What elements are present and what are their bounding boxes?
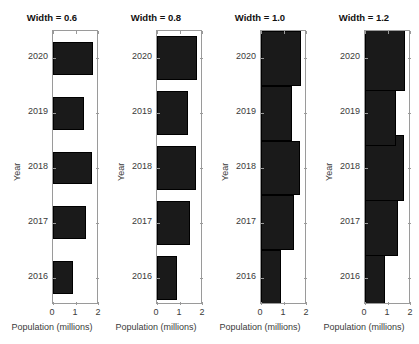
- y-tick-label: 2016: [124, 271, 152, 281]
- bar: [53, 152, 92, 185]
- x-tick-label: 1: [275, 307, 291, 317]
- x-tick-mark: [365, 31, 366, 34]
- x-tick-mark: [202, 31, 203, 34]
- y-tick-label: 2016: [332, 271, 360, 281]
- x-tick-mark: [284, 31, 285, 34]
- subplot-1: Width = 0.620162017201820192020012Popula…: [0, 0, 104, 344]
- y-tick-mark: [53, 58, 56, 59]
- y-tick-label: 2016: [20, 271, 48, 281]
- y-tick-mark: [261, 168, 264, 169]
- y-tick-mark: [408, 278, 411, 279]
- plot-area: [157, 31, 201, 303]
- y-tick-mark: [365, 58, 368, 59]
- bar: [261, 195, 294, 250]
- bar: [157, 36, 197, 80]
- x-tick-mark: [157, 31, 158, 34]
- y-tick-label: 2019: [20, 106, 48, 116]
- axes-box: [156, 30, 202, 304]
- x-tick-mark: [180, 302, 181, 305]
- x-tick-label: 0: [252, 307, 268, 317]
- y-tick-mark: [200, 223, 203, 224]
- x-tick-label: 1: [67, 307, 83, 317]
- subplot-title: Width = 0.8: [104, 12, 208, 23]
- y-tick-mark: [96, 223, 99, 224]
- plot-area: [365, 31, 409, 303]
- x-tick-mark: [157, 302, 158, 305]
- bar: [53, 206, 86, 239]
- x-tick-label: 0: [148, 307, 164, 317]
- x-tick-label: 0: [44, 307, 60, 317]
- y-tick-mark: [200, 168, 203, 169]
- bar: [53, 42, 93, 75]
- y-tick-mark: [408, 168, 411, 169]
- y-axis-label: Year: [116, 163, 126, 181]
- bar: [157, 146, 196, 190]
- x-tick-mark: [306, 31, 307, 34]
- y-tick-label: 2020: [332, 51, 360, 61]
- y-tick-mark: [53, 168, 56, 169]
- x-tick-mark: [388, 31, 389, 34]
- y-tick-label: 2020: [124, 51, 152, 61]
- y-tick-mark: [408, 113, 411, 114]
- bar: [261, 250, 281, 303]
- x-tick-mark: [388, 302, 389, 305]
- y-tick-label: 2020: [228, 51, 256, 61]
- x-tick-mark: [306, 302, 307, 305]
- x-tick-mark: [76, 302, 77, 305]
- y-tick-mark: [304, 168, 307, 169]
- x-axis-label: Population (millions): [0, 322, 104, 332]
- subplot-2: Width = 0.820162017201820192020012Popula…: [104, 0, 208, 344]
- x-axis-label: Population (millions): [208, 322, 312, 332]
- bar: [261, 31, 301, 86]
- plot-area: [261, 31, 305, 303]
- y-tick-mark: [365, 113, 368, 114]
- bar: [53, 97, 84, 130]
- y-tick-mark: [365, 223, 368, 224]
- y-tick-mark: [261, 58, 264, 59]
- bar: [157, 91, 188, 135]
- y-tick-mark: [157, 168, 160, 169]
- x-tick-label: 1: [379, 307, 395, 317]
- subplot-title: Width = 1.0: [208, 12, 312, 23]
- y-tick-label: 2017: [228, 216, 256, 226]
- y-axis-label: Year: [324, 163, 334, 181]
- y-tick-mark: [304, 58, 307, 59]
- y-tick-mark: [304, 223, 307, 224]
- x-tick-label: 1: [171, 307, 187, 317]
- bar: [365, 31, 405, 91]
- x-tick-mark: [98, 302, 99, 305]
- y-tick-mark: [96, 278, 99, 279]
- y-tick-mark: [53, 113, 56, 114]
- subplot-4: Width = 1.220162017201820192020012Popula…: [312, 0, 416, 344]
- y-tick-label: 2020: [20, 51, 48, 61]
- y-tick-label: 2018: [20, 161, 48, 171]
- subplot-title: Width = 0.6: [0, 12, 104, 23]
- y-tick-label: 2018: [228, 161, 256, 171]
- y-tick-mark: [365, 278, 368, 279]
- x-tick-mark: [98, 31, 99, 34]
- y-tick-mark: [53, 278, 56, 279]
- y-tick-mark: [261, 223, 264, 224]
- y-tick-mark: [157, 113, 160, 114]
- y-tick-mark: [408, 223, 411, 224]
- y-tick-mark: [200, 58, 203, 59]
- y-tick-mark: [157, 223, 160, 224]
- x-tick-mark: [365, 302, 366, 305]
- y-tick-label: 2019: [332, 106, 360, 116]
- y-tick-mark: [96, 58, 99, 59]
- x-tick-mark: [261, 302, 262, 305]
- axes-box: [260, 30, 306, 304]
- x-tick-mark: [410, 302, 411, 305]
- x-tick-mark: [261, 31, 262, 34]
- x-tick-mark: [202, 302, 203, 305]
- bar: [261, 141, 300, 196]
- y-tick-label: 2019: [228, 106, 256, 116]
- y-tick-label: 2017: [20, 216, 48, 226]
- bar: [157, 201, 190, 245]
- x-tick-mark: [76, 31, 77, 34]
- x-axis-label: Population (millions): [104, 322, 208, 332]
- x-tick-mark: [53, 302, 54, 305]
- bar: [53, 261, 73, 294]
- y-tick-mark: [96, 113, 99, 114]
- axes-box: [364, 30, 410, 304]
